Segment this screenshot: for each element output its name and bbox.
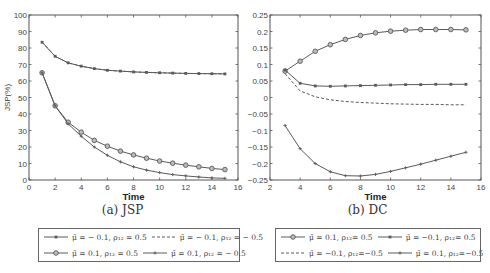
axes: 02468101214160102030405060708090100TimeJ… xyxy=(3,11,243,200)
x-axis-label: Time xyxy=(122,191,144,200)
star-marker xyxy=(153,251,156,254)
legend-label: μ̃ = 0.1, ρ₁₂ = 0.5 xyxy=(72,249,138,258)
series-solid-circle xyxy=(283,27,468,73)
circle-marker xyxy=(92,138,97,143)
x-tick-label: 16 xyxy=(234,183,243,192)
legend-swatch-icon xyxy=(387,248,413,258)
series-dashed xyxy=(42,42,225,74)
dot-marker xyxy=(299,82,302,85)
dot-marker xyxy=(314,85,317,88)
y-tick-label: 100 xyxy=(14,11,28,20)
series-line xyxy=(285,74,466,105)
circle-marker xyxy=(373,31,378,36)
circle-marker xyxy=(131,153,136,158)
star-marker xyxy=(398,251,401,254)
plot-frame xyxy=(270,15,481,180)
circle-marker xyxy=(183,163,188,168)
legend-swatch-icon xyxy=(43,232,69,242)
y-tick-label: 0 xyxy=(264,94,269,103)
x-tick-label: 12 xyxy=(416,183,425,192)
series-solid-dot xyxy=(41,41,227,75)
dot-marker xyxy=(465,83,468,86)
series-solid-dot xyxy=(284,69,468,88)
circle-marker xyxy=(313,49,318,54)
axes: 246810121416−0.25−0.2−0.15−0.1−0.0500.05… xyxy=(248,11,486,200)
legend-row: μ̃ = 0.1, ρ₁₂= 0.5μ̃ = −0.1, ρ₁₂= 0.5 xyxy=(280,229,476,245)
circle-marker xyxy=(54,251,59,256)
legend-jsp: μ̃ = − 0.1, ρ₁₂ = 0.5μ̃ = − 0.1, ρ₁₂ = −… xyxy=(38,228,240,262)
legend-item: μ̃ = 0.1, ρ₁₂ = 0.5 xyxy=(43,248,138,258)
legend-item: μ̃ = −0.1, ρ₁₂= 0.5 xyxy=(377,232,476,242)
legend-swatch-icon xyxy=(151,232,177,242)
legend-dc: μ̃ = 0.1, ρ₁₂= 0.5μ̃ = −0.1, ρ₁₂= 0.5μ̃ … xyxy=(275,228,481,262)
x-tick-label: 2 xyxy=(53,183,58,192)
x-tick-label: 0 xyxy=(27,183,32,192)
dot-marker xyxy=(344,85,347,88)
star-marker xyxy=(419,163,422,166)
x-tick-label: 4 xyxy=(298,183,303,192)
dot-marker xyxy=(389,84,392,87)
x-tick-label: 6 xyxy=(328,183,333,192)
circle-marker xyxy=(157,159,162,164)
y-tick-label: 80 xyxy=(18,44,27,53)
circle-marker xyxy=(418,27,423,32)
caption-jsp: (a) JSP xyxy=(0,203,245,217)
y-tick-label: −0.25 xyxy=(248,176,269,185)
legend-swatch-icon xyxy=(280,248,306,258)
legend-label: μ̃ = 0.1, ρ₁₂= 0.5 xyxy=(309,233,373,242)
circle-marker xyxy=(197,165,202,170)
circle-marker xyxy=(105,144,110,149)
star-marker xyxy=(344,174,347,177)
legend-label: μ̃ = −0.1, ρ₁₂=−0.5 xyxy=(309,249,383,258)
series-line xyxy=(42,73,225,179)
circle-marker xyxy=(403,28,408,33)
series-solid-star xyxy=(283,124,467,178)
legend-label: μ̃ = − 0.1, ρ₁₂ = 0.5 xyxy=(72,233,147,242)
x-tick-label: 4 xyxy=(79,183,84,192)
legend-item: μ̃ = −0.1, ρ₁₂=−0.5 xyxy=(280,248,383,258)
circle-marker xyxy=(144,156,149,161)
y-axis-label: JSP(%) xyxy=(3,84,12,111)
y-tick-label: 10 xyxy=(18,160,27,169)
dot-marker xyxy=(329,85,332,88)
x-tick-label: 14 xyxy=(446,183,455,192)
circle-marker xyxy=(464,28,469,33)
series-line xyxy=(42,42,225,74)
circle-marker xyxy=(291,235,296,240)
y-tick-label: 0.25 xyxy=(252,11,268,20)
y-tick-label: 60 xyxy=(18,77,27,86)
legend-item: μ̃ = 0.1, ρ₁₂ = − 0.5 xyxy=(142,248,246,258)
star-marker xyxy=(449,155,452,158)
y-tick-label: 0.05 xyxy=(252,77,268,86)
circle-marker xyxy=(298,59,303,64)
circle-marker xyxy=(170,161,175,166)
y-tick-label: 30 xyxy=(18,127,27,136)
dot-marker xyxy=(419,83,422,86)
y-tick-label: 0 xyxy=(23,176,28,185)
star-marker xyxy=(158,171,161,174)
series-line xyxy=(285,70,466,86)
legend-swatch-icon xyxy=(377,232,403,242)
y-tick-label: 40 xyxy=(18,110,27,119)
legend-swatch-icon xyxy=(43,248,69,258)
circle-marker xyxy=(210,166,215,171)
jsp-chart: 02468101214160102030405060708090100TimeJ… xyxy=(0,0,245,200)
star-marker xyxy=(210,176,213,179)
figure-jsp: 02468101214160102030405060708090100TimeJ… xyxy=(0,0,245,273)
star-marker xyxy=(434,159,437,162)
x-tick-label: 8 xyxy=(358,183,363,192)
series-line xyxy=(285,30,466,72)
star-marker xyxy=(171,173,174,176)
figure-dc: 246810121416−0.25−0.2−0.15−0.1−0.0500.05… xyxy=(245,0,490,273)
y-tick-label: 0.15 xyxy=(252,44,268,53)
series-line xyxy=(285,126,466,176)
circle-marker xyxy=(328,42,333,47)
y-tick-label: 90 xyxy=(18,28,27,37)
legend-item: μ̃ = 0.1, ρ₁₂=−0.5 xyxy=(387,248,484,258)
star-marker xyxy=(145,169,148,172)
legend-label: μ̃ = 0.1, ρ₁₂=−0.5 xyxy=(416,249,484,258)
legend-row: μ̃ = −0.1, ρ₁₂=−0.5μ̃ = 0.1, ρ₁₂=−0.5 xyxy=(280,245,476,261)
circle-marker xyxy=(358,33,363,38)
circle-marker xyxy=(433,27,438,32)
y-tick-label: −0.1 xyxy=(252,127,268,136)
